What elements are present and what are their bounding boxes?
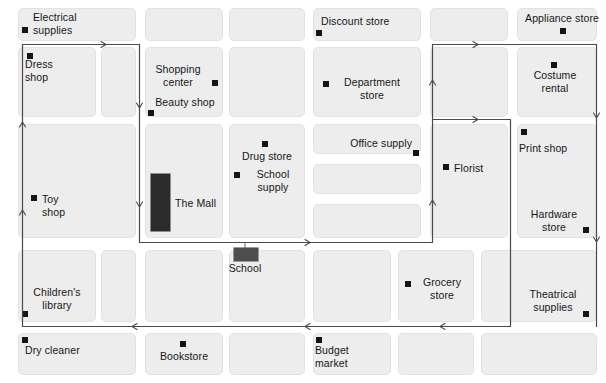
poi-marker-department-store[interactable] xyxy=(323,81,329,87)
poi-label-dress-shop: Dress shop xyxy=(25,58,95,83)
mall-building xyxy=(150,173,171,232)
city-block xyxy=(229,47,305,117)
poi-marker-school-supply[interactable] xyxy=(234,172,240,178)
city-block xyxy=(430,124,508,238)
poi-label-school: School xyxy=(215,262,275,275)
poi-label-appliance-store: Appliance store xyxy=(517,12,606,25)
city-block xyxy=(313,164,421,194)
city-block xyxy=(18,124,136,238)
poi-label-the-mall: The Mall xyxy=(175,197,229,210)
poi-marker-shopping-center[interactable] xyxy=(212,80,218,86)
poi-marker-costume-rental[interactable] xyxy=(551,62,557,68)
poi-label-dry-cleaner: Dry cleaner xyxy=(25,344,115,357)
school-building xyxy=(233,247,259,262)
poi-marker-discount-store[interactable] xyxy=(316,30,322,36)
poi-label-children-library: Children's library xyxy=(18,286,96,311)
poi-marker-dress-shop[interactable] xyxy=(27,53,33,59)
poi-marker-grocery-store[interactable] xyxy=(405,281,411,287)
poi-label-drug-store: Drug store xyxy=(229,150,305,163)
poi-marker-dry-cleaner[interactable] xyxy=(22,337,28,343)
poi-marker-bookstore[interactable] xyxy=(180,341,186,347)
poi-marker-budget-market[interactable] xyxy=(316,337,322,343)
poi-marker-electrical-supplies[interactable] xyxy=(22,27,28,33)
poi-label-school-supply: School supply xyxy=(243,168,303,193)
poi-marker-beauty-shop[interactable] xyxy=(148,110,154,116)
city-block xyxy=(313,250,391,322)
poi-label-office-supply: Office supply xyxy=(320,137,412,150)
poi-label-toy-shop: Toy shop xyxy=(42,193,94,218)
poi-label-costume-rental: Costume rental xyxy=(516,69,594,94)
poi-label-department-store: Department store xyxy=(333,76,411,101)
poi-marker-office-supply[interactable] xyxy=(413,150,419,156)
poi-label-electrical-supplies: Electrical supplies xyxy=(33,11,113,36)
poi-label-print-shop: Print shop xyxy=(519,142,595,155)
poi-label-bookstore: Bookstore xyxy=(145,350,223,363)
poi-marker-hardware-store[interactable] xyxy=(583,227,589,233)
poi-label-theatrical-supplies: Theatrical supplies xyxy=(514,288,592,313)
poi-marker-appliance-store[interactable] xyxy=(560,28,566,34)
poi-label-shopping-center: Shopping center xyxy=(146,63,210,88)
poi-marker-children-library[interactable] xyxy=(22,311,28,317)
poi-marker-theatrical-supplies[interactable] xyxy=(583,311,589,317)
city-block xyxy=(101,47,136,117)
city-block xyxy=(398,333,474,375)
poi-marker-florist[interactable] xyxy=(443,164,449,170)
city-block xyxy=(229,333,305,375)
poi-label-budget-market: Budget market xyxy=(315,344,391,369)
city-block xyxy=(229,8,305,41)
city-block xyxy=(101,250,136,322)
poi-marker-toy-shop[interactable] xyxy=(31,195,37,201)
poi-label-grocery-store: Grocery store xyxy=(413,276,471,301)
poi-marker-drug-store[interactable] xyxy=(262,141,268,147)
poi-label-beauty-shop: Beauty shop xyxy=(146,96,224,109)
poi-label-florist: Florist xyxy=(454,162,504,175)
city-map: Electrical supplies Discount store Appli… xyxy=(0,0,606,383)
poi-label-hardware-store: Hardware store xyxy=(516,208,592,233)
poi-marker-print-shop[interactable] xyxy=(521,129,527,135)
city-block xyxy=(145,250,223,322)
city-block xyxy=(145,8,223,41)
city-block xyxy=(481,333,597,375)
poi-label-discount-store: Discount store xyxy=(321,15,413,28)
city-block xyxy=(430,8,508,41)
city-block xyxy=(313,204,421,238)
city-block xyxy=(430,47,508,117)
